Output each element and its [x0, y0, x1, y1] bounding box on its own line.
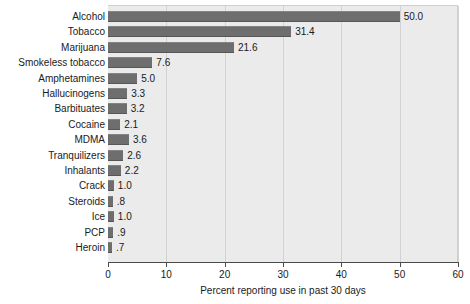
bar-value-label: 7.6	[156, 57, 170, 68]
category-label: Amphetamines	[1, 73, 105, 84]
bar-value-label: 3.6	[133, 134, 147, 145]
gridline	[458, 6, 459, 262]
bar	[108, 134, 129, 145]
x-axis-title: Percent reporting use in past 30 days	[108, 285, 458, 297]
bar	[108, 180, 114, 191]
gridline	[283, 6, 284, 262]
bar	[108, 88, 127, 99]
category-label: MDMA	[1, 134, 105, 145]
x-tick-label: 40	[326, 269, 356, 281]
x-tick-label: 0	[93, 269, 123, 281]
category-label: Hallucinogens	[1, 88, 105, 99]
x-tick-label: 20	[210, 269, 240, 281]
bar	[108, 150, 123, 161]
bar-value-label: 5.0	[141, 73, 155, 84]
bar	[108, 42, 234, 53]
gridline	[341, 6, 342, 262]
x-tick	[400, 262, 401, 267]
bar-value-label: 2.1	[124, 119, 138, 130]
x-tick-label: 60	[443, 269, 470, 281]
bar	[108, 103, 127, 114]
bar-value-label: .8	[117, 196, 125, 207]
bar-value-label: 21.6	[238, 42, 257, 53]
bar	[108, 242, 112, 253]
bar-value-label: 2.2	[125, 165, 139, 176]
bar	[108, 73, 137, 84]
bar	[108, 57, 152, 68]
bar-value-label: 3.2	[131, 103, 145, 114]
bar-value-label: 2.6	[127, 150, 141, 161]
bar-value-label: .7	[116, 242, 124, 253]
category-label: Crack	[1, 180, 105, 191]
bar-value-label: 1.0	[118, 211, 132, 222]
bar	[108, 211, 114, 222]
category-label: PCP	[1, 227, 105, 238]
category-label: Heroin	[1, 242, 105, 253]
bar-value-label: .9	[117, 227, 125, 238]
x-tick-label: 50	[385, 269, 415, 281]
category-label: Steroids	[1, 196, 105, 207]
x-tick-label: 30	[268, 269, 298, 281]
bar-value-label: 1.0	[118, 180, 132, 191]
category-label: Smokeless tobacco	[1, 57, 105, 68]
x-tick	[341, 262, 342, 267]
bar-value-label: 3.3	[131, 88, 145, 99]
x-tick	[283, 262, 284, 267]
category-label: Marijuana	[1, 42, 105, 53]
bar-value-label: 50.0	[404, 11, 423, 22]
x-tick	[108, 262, 109, 267]
gridline	[400, 6, 401, 262]
category-label: Cocaine	[1, 119, 105, 130]
bar-chart: AlcoholTobaccoMarijuanaSmokeless tobacco…	[0, 0, 470, 304]
x-tick	[225, 262, 226, 267]
category-label: Inhalants	[1, 165, 105, 176]
bar	[108, 26, 291, 37]
category-label: Barbituates	[1, 103, 105, 114]
bar	[108, 196, 113, 207]
category-label: Alcohol	[1, 11, 105, 22]
bar	[108, 227, 113, 238]
bar	[108, 11, 400, 22]
category-label: Ice	[1, 211, 105, 222]
x-tick	[458, 262, 459, 267]
bar-value-label: 31.4	[295, 26, 314, 37]
x-tick-label: 10	[151, 269, 181, 281]
x-tick	[166, 262, 167, 267]
bar	[108, 165, 121, 176]
bar	[108, 119, 120, 130]
category-axis: AlcoholTobaccoMarijuanaSmokeless tobacco…	[0, 0, 105, 257]
category-label: Tranquilizers	[1, 150, 105, 161]
category-label: Tobacco	[1, 26, 105, 37]
